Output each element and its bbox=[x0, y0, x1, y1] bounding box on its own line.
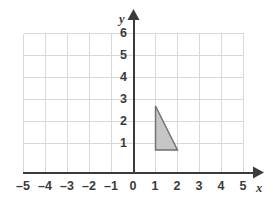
y-axis-label: y bbox=[119, 13, 125, 26]
y-tick-label-6: 6 bbox=[109, 27, 127, 40]
x-axis-arrowhead bbox=[253, 167, 264, 179]
triangle-shape bbox=[156, 106, 178, 150]
x-tick-label-1: 1 bbox=[144, 180, 166, 193]
x-tick-label-3: 3 bbox=[188, 180, 210, 193]
x-tick-label-0: 0 bbox=[122, 180, 144, 193]
x-axis-label: x bbox=[256, 182, 262, 195]
y-axis-arrowhead bbox=[128, 9, 140, 20]
x-tick-label--1: –1 bbox=[100, 180, 122, 193]
coordinate-plane-svg bbox=[0, 0, 273, 198]
x-tick-label--3: –3 bbox=[56, 180, 78, 193]
y-tick-label-4: 4 bbox=[109, 71, 127, 84]
y-tick-label-2: 2 bbox=[109, 115, 127, 128]
axes bbox=[23, 9, 264, 179]
x-tick-label-5: 5 bbox=[232, 180, 254, 193]
x-tick-label-4: 4 bbox=[210, 180, 232, 193]
y-tick-label-5: 5 bbox=[109, 49, 127, 62]
x-tick-label--5: –5 bbox=[12, 180, 34, 193]
x-tick-label--2: –2 bbox=[78, 180, 100, 193]
y-tick-label-1: 1 bbox=[109, 137, 127, 150]
x-tick-label--4: –4 bbox=[34, 180, 56, 193]
x-tick-label-2: 2 bbox=[166, 180, 188, 193]
y-tick-label-3: 3 bbox=[109, 93, 127, 106]
coordinate-plane-figure: –5 –4 –3 –2 –1 0 1 2 3 4 5 1 2 3 4 5 6 x… bbox=[0, 0, 273, 198]
